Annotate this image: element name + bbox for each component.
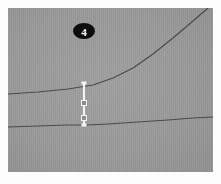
panel-badge-label: 4	[81, 26, 87, 38]
grayscale-image-area: 4	[8, 8, 213, 172]
figure-panel: 4	[0, 0, 221, 184]
measurement-top-endpoint	[82, 82, 87, 85]
lower-curve	[8, 117, 213, 127]
measurement-marker-lower	[82, 116, 87, 121]
upper-curve	[8, 8, 208, 94]
measurement-marker-upper	[82, 101, 87, 106]
measurement-bottom-endpoint	[82, 124, 87, 127]
diagram-overlay: 4	[8, 8, 213, 172]
